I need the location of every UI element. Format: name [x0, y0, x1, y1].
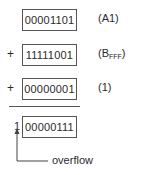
overflow-arrow-icon [0, 0, 143, 175]
overflow-label: overflow [52, 154, 93, 166]
